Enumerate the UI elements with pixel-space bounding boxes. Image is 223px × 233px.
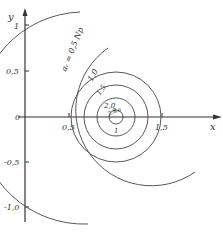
contour-label-0-5: aᵣ = 0,5 Np — [60, 26, 86, 73]
y-tick-1: 1 — [14, 22, 19, 31]
y-tick-neg-1-0: -1,0 — [4, 203, 19, 212]
contour-label-3-0: 3,0 — [113, 107, 122, 113]
x-tick-1-5: 1,5 — [155, 123, 168, 132]
y-tick-0: 0 — [15, 113, 20, 122]
y-axis-label: y — [7, 11, 14, 22]
center-label-1: 1 — [114, 127, 118, 135]
contour-label-1-0: 1,0 — [86, 67, 100, 83]
y-tick-neg-0-5: -0,5 — [4, 158, 19, 167]
x-axis-arrow-icon — [213, 115, 222, 120]
y-axis-arrow-icon — [23, 8, 28, 16]
x-tick-0-5: 0,5 — [62, 123, 75, 132]
y-tick-0-5: 0,5 — [6, 67, 19, 76]
contour-label-1-5: 1,5 — [95, 83, 108, 97]
contour-lines — [0, 12, 195, 224]
axes — [18, 12, 218, 222]
ticks — [25, 25, 162, 207]
x-axis-label: x — [210, 121, 216, 132]
contour-chart: y x 1 0,5 0 -0,5 -1,0 0,5 1,5 aᵣ = 0,5 N… — [0, 0, 223, 233]
